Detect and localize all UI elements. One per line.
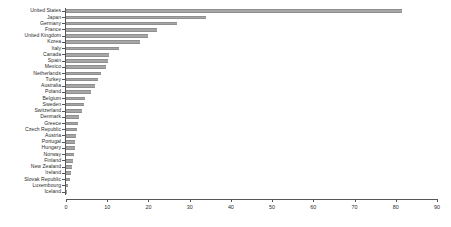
bar <box>66 40 140 44</box>
x-tick-mark <box>437 199 438 202</box>
x-tick-label: 20 <box>145 204 151 211</box>
bar-rows <box>66 8 437 195</box>
x-tick-label: 10 <box>104 204 110 211</box>
x-tick-mark <box>148 199 149 202</box>
plot-area <box>66 8 437 195</box>
x-axis-tick-labels: 0102030405060708090 <box>66 204 437 214</box>
bar <box>66 90 91 94</box>
bar <box>66 184 68 188</box>
bar <box>66 53 109 57</box>
bar <box>66 9 402 13</box>
bar <box>66 109 82 113</box>
bar <box>66 140 75 144</box>
bar <box>66 146 75 150</box>
bar <box>66 22 177 26</box>
bar <box>66 190 67 194</box>
x-tick-label: 30 <box>187 204 193 211</box>
bar <box>66 178 70 182</box>
bar <box>66 153 74 157</box>
x-tick-mark <box>313 199 314 202</box>
x-tick-mark <box>66 199 67 202</box>
x-tick-label: 50 <box>269 204 275 211</box>
x-tick-label: 40 <box>228 204 234 211</box>
x-tick-label: 0 <box>65 204 68 211</box>
bar <box>66 128 77 132</box>
bar <box>66 16 206 20</box>
bar <box>66 122 78 126</box>
bar <box>66 84 95 88</box>
x-axis-ticks <box>66 199 437 203</box>
x-tick-label: 60 <box>310 204 316 211</box>
bar <box>66 171 71 175</box>
x-tick-mark <box>355 199 356 202</box>
x-tick-label: 90 <box>434 204 440 211</box>
bar-chart: United StatesJapanGermanyFranceUnited Ki… <box>0 0 451 227</box>
bar <box>66 159 73 163</box>
bar <box>66 47 119 51</box>
bar <box>66 72 101 76</box>
bar <box>66 78 98 82</box>
bar <box>66 115 79 119</box>
x-tick-mark <box>272 199 273 202</box>
bar <box>66 28 157 32</box>
bar <box>66 34 148 38</box>
category-label: Iceland <box>44 189 62 195</box>
x-tick-mark <box>396 199 397 202</box>
category-axis-labels: United StatesJapanGermanyFranceUnited Ki… <box>0 8 62 195</box>
bar <box>66 65 106 69</box>
bar <box>66 59 108 63</box>
x-tick-mark <box>190 199 191 202</box>
category-label-row: Iceland <box>0 189 62 195</box>
x-tick-label: 80 <box>393 204 399 211</box>
x-tick-mark <box>107 199 108 202</box>
x-tick-label: 70 <box>352 204 358 211</box>
x-tick-mark <box>231 199 232 202</box>
bar-row <box>66 189 437 195</box>
bar <box>66 134 76 138</box>
bar <box>66 165 72 169</box>
bar <box>66 103 84 107</box>
bar <box>66 97 85 101</box>
